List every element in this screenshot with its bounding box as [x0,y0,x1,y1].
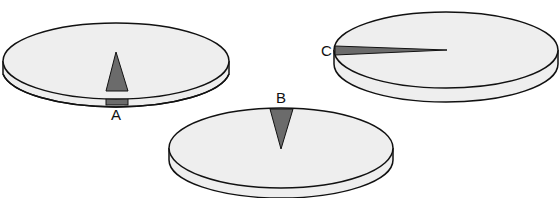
label-a: A [111,106,121,123]
disc-a [3,23,229,107]
disc-b [169,108,393,198]
label-b: B [276,89,286,106]
disc-c [334,12,558,102]
label-c: C [321,42,332,59]
